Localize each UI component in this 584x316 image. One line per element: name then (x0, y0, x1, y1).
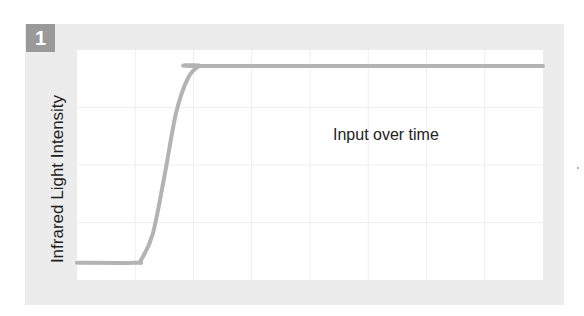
chart-annotation: Input over time (333, 126, 439, 144)
chart-svg (0, 0, 584, 316)
stray-dot (577, 167, 579, 169)
y-axis-label: Infrared Light Intensity (48, 95, 68, 263)
